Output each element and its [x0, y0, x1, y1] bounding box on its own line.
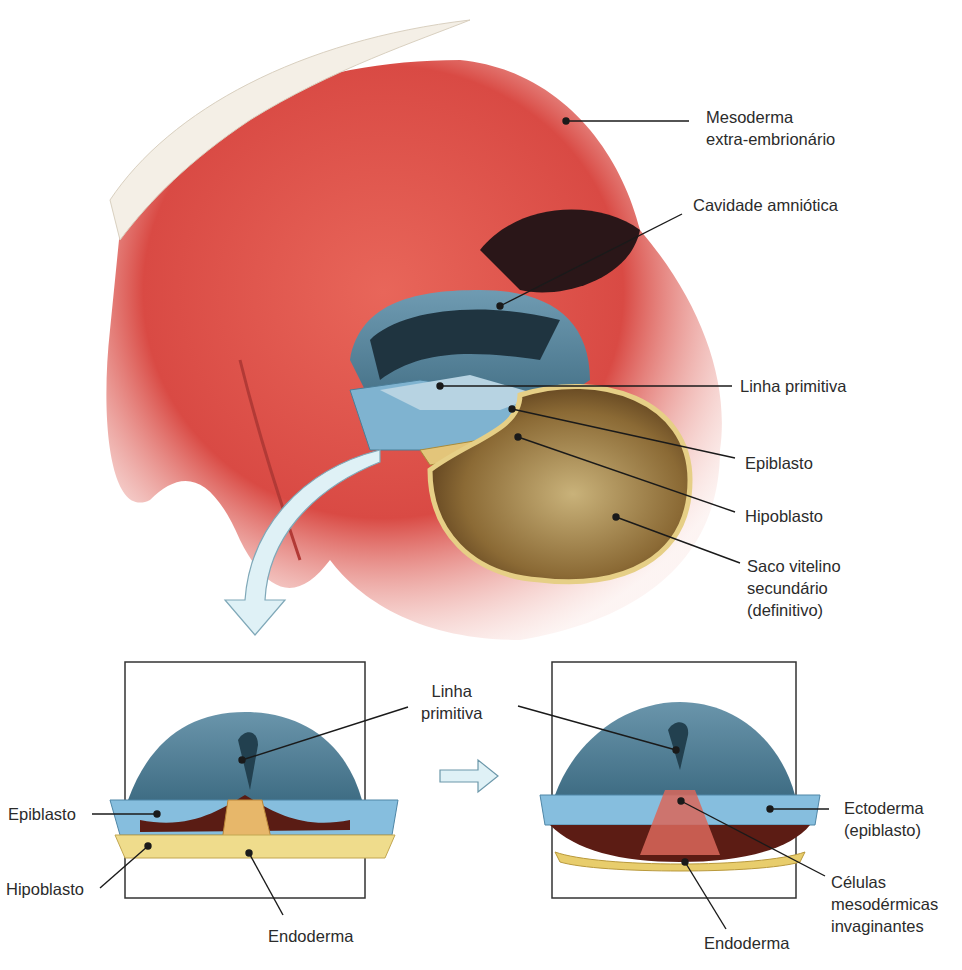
label-amniotic-cavity: Cavidade amniótica [693, 194, 838, 216]
label-ectoderm: Ectoderma (epiblasto) [844, 797, 924, 841]
label-ectoderm-line2: (epiblasto) [844, 819, 924, 841]
label-primitive-streak-bottom: Linha primitiva [421, 680, 482, 724]
label-hypoblast-top: Hipoblasto [745, 505, 823, 527]
label-epiblast-bottom: Epiblasto [8, 803, 76, 825]
label-mesoderm-cells-line3: invaginantes [831, 915, 938, 937]
label-yolk-sac-line2: secundário [747, 577, 841, 599]
label-mesoderm-line2: extra-embrionário [706, 128, 835, 150]
label-epiblast-top: Epiblasto [745, 452, 813, 474]
label-hypoblast-bottom: Hipoblasto [6, 878, 84, 900]
label-primitive-streak-line2: primitiva [421, 702, 482, 724]
label-yolk-sac: Saco vitelino secundário (definitivo) [747, 555, 841, 621]
label-primitive-streak-top: Linha primitiva [740, 375, 846, 397]
label-mesoderm: Mesoderma extra-embrionário [706, 106, 835, 150]
label-ectoderm-line1: Ectoderma [844, 797, 924, 819]
label-mesoderm-cells-line2: mesodérmicas [831, 893, 938, 915]
label-mesoderm-line1: Mesoderma [706, 106, 835, 128]
label-yolk-sac-line3: (definitivo) [747, 599, 841, 621]
label-primitive-streak-line1: Linha [421, 680, 482, 702]
bottom-right-panel [540, 662, 820, 898]
label-yolk-sac-line1: Saco vitelino [747, 555, 841, 577]
label-mesoderm-cells: Células mesodérmicas invaginantes [831, 871, 938, 937]
label-endoderm-left: Endoderma [268, 925, 353, 947]
progression-arrow-right [440, 760, 498, 792]
label-mesoderm-cells-line1: Células [831, 871, 938, 893]
label-endoderm-right: Endoderma [704, 932, 789, 954]
